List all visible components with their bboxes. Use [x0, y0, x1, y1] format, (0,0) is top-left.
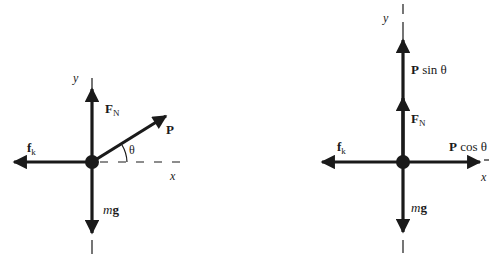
left-x-axis-label: x	[170, 170, 175, 182]
right-free-body-diagram	[322, 4, 489, 253]
diagram-graphics	[0, 0, 499, 259]
right-applied-horizontal-text: cos θ	[460, 139, 487, 154]
left-friction-force-subscript: k	[31, 147, 36, 157]
right-normal-force-label: FN	[411, 112, 425, 125]
right-normal-force-subscript: N	[419, 118, 426, 128]
angle-arc	[122, 145, 127, 162]
left-weight-force-label: mg	[103, 203, 119, 216]
left-weight-g-symbol: g	[112, 202, 119, 217]
left-applied-force-label: P	[166, 123, 174, 136]
left-origin-particle	[85, 155, 99, 169]
right-y-axis-label: y	[383, 12, 388, 24]
left-normal-force-symbol: F	[105, 101, 113, 116]
left-friction-force-label: fk	[27, 141, 36, 154]
left-free-body-diagram	[14, 78, 181, 254]
right-friction-force-subscript: k	[341, 146, 346, 156]
left-y-axis-label: y	[73, 72, 78, 84]
right-applied-horizontal-label: P cos θ	[449, 140, 487, 153]
right-weight-mass-symbol: m	[411, 200, 420, 215]
right-applied-vertical-text: sin θ	[422, 62, 447, 77]
right-weight-force-label: mg	[411, 201, 427, 214]
right-friction-force-label: fk	[337, 140, 346, 153]
left-normal-force-subscript: N	[113, 108, 120, 118]
right-weight-g-symbol: g	[420, 200, 427, 215]
left-weight-mass-symbol: m	[103, 202, 112, 217]
free-body-diagrams: y x FN fk mg P θ y x P sin θ FN fk P cos…	[0, 0, 499, 259]
right-applied-vertical-symbol: P	[411, 62, 419, 77]
right-applied-horizontal-symbol: P	[449, 139, 457, 154]
angle-theta-label: θ	[129, 144, 135, 156]
right-x-axis-label: x	[481, 171, 486, 183]
left-normal-force-label: FN	[105, 102, 119, 115]
right-applied-vertical-label: P sin θ	[411, 63, 447, 76]
right-origin-particle	[396, 155, 410, 169]
right-normal-force-symbol: F	[411, 111, 419, 126]
